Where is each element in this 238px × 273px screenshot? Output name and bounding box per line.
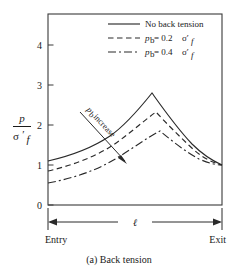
ytick-label-3: 3 [37, 80, 42, 91]
length-symbol-label: ℓ [133, 217, 137, 228]
entry-label: Entry [45, 234, 67, 245]
legend-3-sigma: σ′ [182, 47, 189, 57]
legend-2-sigma: σ′ [182, 33, 189, 43]
ytick-label-4: 4 [37, 40, 42, 51]
figure-caption: (a) Back tension [86, 254, 152, 266]
plot-frame [48, 14, 222, 205]
length-arrowhead-right [213, 219, 222, 226]
y-axis-label-numerator: p [18, 112, 25, 124]
y-axis-label-subscript: f [26, 133, 31, 145]
y-axis-label: p σ ′ f [13, 112, 31, 145]
ytick-label-2: 2 [37, 120, 42, 131]
exit-label: Exit [209, 234, 226, 245]
legend-3-equals: = 0.4 [154, 47, 173, 57]
length-dimension: ℓ [48, 208, 222, 230]
chart-svg: 0 1 2 3 4 p σ ′ f p b increase No back t… [0, 0, 238, 273]
legend-2-equals: = 0.2 [154, 33, 173, 43]
ytick-label-0: 0 [37, 200, 42, 211]
figure-back-tension: 0 1 2 3 4 p σ ′ f p b increase No back t… [0, 0, 238, 273]
y-axis-label-prime: ′ [22, 128, 24, 140]
y-axis-label-sigma: σ [13, 130, 19, 142]
legend-label-no-back-tension: No back tension [145, 19, 204, 29]
length-arrowhead-left [48, 219, 57, 226]
ytick-label-1: 1 [37, 160, 42, 171]
